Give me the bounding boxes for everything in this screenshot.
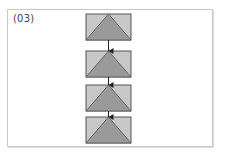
diagram-node-3 [86,85,131,111]
flow-diagram [0,0,226,159]
diagram-node-2 [86,51,131,77]
diagram-node-4 [86,117,131,143]
diagram-node-1 [86,14,131,40]
